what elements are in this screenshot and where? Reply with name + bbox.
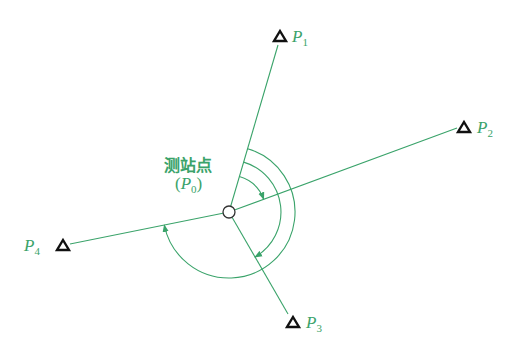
angle-arc-p1-p2 (239, 177, 263, 200)
station-symbol: (P0) (175, 174, 202, 195)
station-label: 测站点 (164, 152, 212, 176)
triangle-p1-icon (274, 31, 286, 41)
label-p2: P2 (477, 119, 493, 139)
label-p3: P3 (306, 314, 322, 334)
line-to-p2 (229, 128, 457, 212)
label-p1: P1 (292, 28, 308, 48)
triangle-p3-icon (287, 317, 299, 327)
line-to-p4 (70, 212, 229, 244)
diagram-canvas (0, 0, 524, 360)
angle-arc-p1-p3 (244, 162, 281, 257)
triangle-p2-icon (458, 122, 470, 132)
station-point-circle (223, 206, 235, 218)
survey-direction-diagram: P1 P2 P3 P4 测站点 (P0) (0, 0, 524, 360)
label-p4: P4 (24, 237, 40, 257)
triangle-p4-icon (57, 240, 69, 250)
line-to-p1 (229, 45, 278, 212)
